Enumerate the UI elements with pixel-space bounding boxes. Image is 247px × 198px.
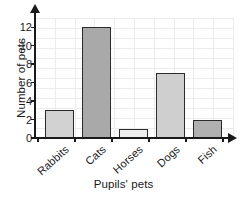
x-category-label-rabbits: Rabbits <box>32 143 71 180</box>
y-axis-tick <box>31 63 35 64</box>
x-category-label-horses: Horses <box>106 143 145 180</box>
y-axis-tick <box>31 137 35 138</box>
x-axis-title: Pupils' pets <box>0 178 247 190</box>
x-category-label-dogs: Dogs <box>143 143 182 180</box>
y-axis-tick <box>31 100 35 101</box>
y-tick-label: 2 <box>16 115 32 125</box>
x-axis-tick <box>37 138 38 142</box>
grid-line-vertical <box>233 18 234 138</box>
y-axis-tick <box>31 119 35 120</box>
arrow-right-icon <box>228 133 237 143</box>
bars-group <box>35 18 233 138</box>
y-tick-label: 6 <box>16 78 32 88</box>
bar-rabbits <box>45 110 75 138</box>
y-axis-tick-labels: 121086420 <box>16 18 32 138</box>
y-tick-label: 10 <box>16 41 32 51</box>
plot-area <box>35 18 233 138</box>
x-category-label-cats: Cats <box>69 143 108 180</box>
x-axis-tick <box>185 138 186 142</box>
y-tick-label: 8 <box>16 59 32 69</box>
bar-chart: Number of pets 121086420 RabbitsCatsHors… <box>0 0 247 198</box>
x-axis-tick <box>74 138 75 142</box>
x-axis-tick <box>148 138 149 142</box>
y-tick-label: 0 <box>16 133 32 143</box>
bar-cats <box>82 27 112 138</box>
arrow-up-icon <box>30 4 40 13</box>
x-axis-line <box>34 137 229 139</box>
y-axis-tick <box>31 82 35 83</box>
y-tick-label: 4 <box>16 96 32 106</box>
x-axis-tick <box>222 138 223 142</box>
y-axis-tick <box>31 27 35 28</box>
y-tick-label: 12 <box>16 22 32 32</box>
x-axis-tick <box>111 138 112 142</box>
y-axis-tick <box>31 45 35 46</box>
bar-dogs <box>156 73 186 138</box>
bar-fish <box>193 120 223 138</box>
x-category-label-fish: Fish <box>180 143 219 180</box>
